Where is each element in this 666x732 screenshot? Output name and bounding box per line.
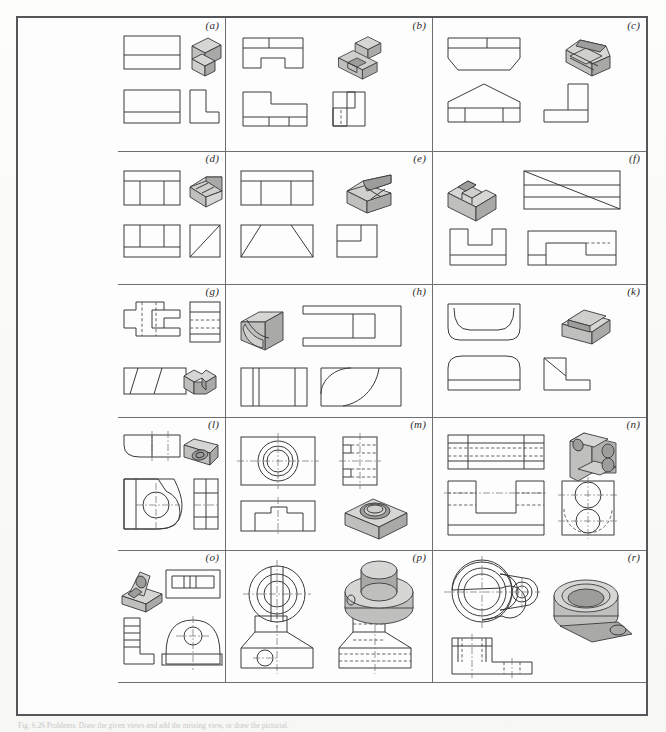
problem-cell-r[interactable]: (r) <box>432 550 646 682</box>
problem-cell-o[interactable]: (o) <box>118 550 225 682</box>
problem-cell-f[interactable]: (f) <box>432 151 646 284</box>
problem-cell-g[interactable]: (g) <box>118 284 225 417</box>
problem-cell-n[interactable]: (n) <box>432 417 646 550</box>
problem-cell-l[interactable]: (l) <box>118 417 225 550</box>
problem-cell-a[interactable]: (a) <box>118 18 225 151</box>
problem-cell-d[interactable]: (d) <box>118 151 225 284</box>
problem-cell-c[interactable]: (c) <box>432 18 646 151</box>
problem-cell-k[interactable]: (k) <box>432 284 646 417</box>
grid-hline-5 <box>348 682 646 683</box>
grid-hline-5b <box>118 682 348 683</box>
problem-cell-b[interactable]: (b) <box>225 18 432 151</box>
figure-caption: Fig. 6.26 Problems. Draw the given views… <box>18 721 638 730</box>
problem-cell-e[interactable]: (e) <box>225 151 432 284</box>
problem-cell-h[interactable]: (h) <box>225 284 432 417</box>
problems-plate: (a) (b) <box>16 16 648 716</box>
problem-cell-m[interactable]: (m) <box>225 417 432 550</box>
problem-cell-p[interactable]: (p) <box>225 550 432 682</box>
